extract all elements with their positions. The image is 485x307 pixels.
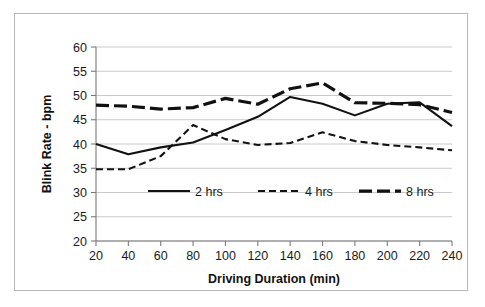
x-tick-label: 40 bbox=[121, 249, 135, 263]
line-chart: 202530354045505560 204060801001201401601… bbox=[15, 14, 467, 290]
x-axis-title: Driving Duration (min) bbox=[208, 272, 340, 286]
x-tick-label: 240 bbox=[442, 249, 463, 263]
legend-label-2-hrs: 2 hrs bbox=[195, 185, 223, 199]
y-tick-label: 25 bbox=[73, 210, 87, 224]
x-tick-label: 60 bbox=[154, 249, 168, 263]
x-tick-marks bbox=[96, 241, 452, 246]
x-tick-label: 220 bbox=[409, 249, 430, 263]
x-tick-labels: 20406080100120140160180200220240 bbox=[89, 249, 462, 263]
chart-legend: 2 hrs4 hrs8 hrs bbox=[148, 185, 434, 199]
x-tick-label: 100 bbox=[215, 249, 236, 263]
x-tick-label: 140 bbox=[280, 249, 301, 263]
y-tick-label: 55 bbox=[73, 65, 87, 79]
legend-label-8-hrs: 8 hrs bbox=[406, 185, 434, 199]
y-tick-label: 20 bbox=[73, 235, 87, 249]
y-tick-label: 50 bbox=[73, 89, 87, 103]
chart-frame: 202530354045505560 204060801001201401601… bbox=[14, 13, 468, 291]
y-tick-labels: 202530354045505560 bbox=[73, 41, 87, 249]
series-line-4-hrs bbox=[96, 125, 452, 169]
x-tick-label: 80 bbox=[186, 249, 200, 263]
y-tick-label: 40 bbox=[73, 138, 87, 152]
y-tick-label: 35 bbox=[73, 162, 87, 176]
y-tick-label: 30 bbox=[73, 186, 87, 200]
y-tick-marks bbox=[91, 47, 96, 241]
x-tick-label: 160 bbox=[312, 249, 333, 263]
y-tick-label: 45 bbox=[73, 113, 87, 127]
legend-label-4-hrs: 4 hrs bbox=[305, 185, 333, 199]
x-tick-label: 20 bbox=[89, 249, 103, 263]
y-axis-title: Blink Rate - bpm bbox=[40, 95, 54, 194]
gridlines bbox=[96, 47, 452, 241]
x-tick-label: 200 bbox=[377, 249, 398, 263]
x-tick-label: 120 bbox=[247, 249, 268, 263]
y-tick-label: 60 bbox=[73, 41, 87, 55]
x-tick-label: 180 bbox=[344, 249, 365, 263]
